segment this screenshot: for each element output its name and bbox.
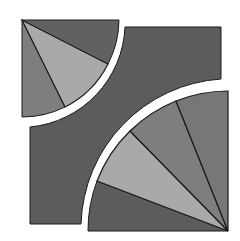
quilt-figure	[0, 0, 240, 241]
quilt-svg	[0, 0, 240, 241]
